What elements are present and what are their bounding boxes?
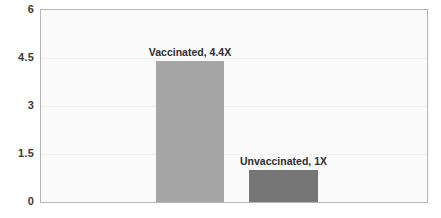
bar-unvaccinated[interactable] (249, 170, 318, 202)
bar-label-unvaccinated: Unvaccinated, 1X (224, 155, 344, 167)
bars-layer: Vaccinated, 4.4X Unvaccinated, 1X (0, 0, 441, 218)
bar-vaccinated[interactable] (156, 61, 224, 202)
bar-label-vaccinated: Vaccinated, 4.4X (130, 46, 250, 58)
bar-chart: 6 4.5 3 1.5 0 Vaccinated, 4.4X Unvaccina… (0, 0, 441, 218)
